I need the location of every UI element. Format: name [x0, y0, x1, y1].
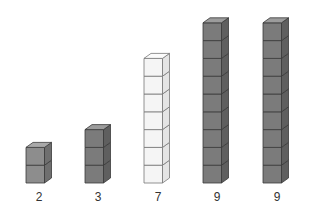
cube-stacks-diagram	[0, 0, 316, 220]
cube-front-face	[26, 165, 45, 183]
cube-front-face	[263, 130, 282, 148]
stack-label-5: 9	[262, 190, 292, 204]
cube-front-face	[85, 130, 104, 148]
cube-front-face	[144, 112, 163, 130]
cube-front-face	[26, 147, 45, 165]
stack-label-1: 2	[24, 190, 54, 204]
cube-front-face	[85, 165, 104, 183]
cube-front-face	[203, 147, 222, 165]
cube-front-face	[203, 94, 222, 112]
stack-label-4: 9	[202, 190, 232, 204]
cube-front-face	[144, 76, 163, 94]
cube-front-face	[203, 165, 222, 183]
cube-front-face	[144, 147, 163, 165]
stack-label-3: 7	[143, 190, 173, 204]
cube-front-face	[203, 23, 222, 41]
cube-front-face	[263, 112, 282, 130]
stack-label-2: 3	[83, 190, 113, 204]
cube-front-face	[263, 41, 282, 59]
cube-front-face	[144, 165, 163, 183]
cube-front-face	[263, 165, 282, 183]
cube-front-face	[144, 94, 163, 112]
cube-front-face	[263, 147, 282, 165]
cube-front-face	[203, 58, 222, 76]
cube-front-face	[85, 147, 104, 165]
cube-front-face	[203, 41, 222, 59]
cube-front-face	[144, 130, 163, 148]
cube-front-face	[203, 76, 222, 94]
cube-front-face	[203, 130, 222, 148]
cube-front-face	[144, 58, 163, 76]
cube-front-face	[263, 94, 282, 112]
cube-front-face	[263, 23, 282, 41]
cube-front-face	[203, 112, 222, 130]
cube-front-face	[263, 76, 282, 94]
cube-front-face	[263, 58, 282, 76]
